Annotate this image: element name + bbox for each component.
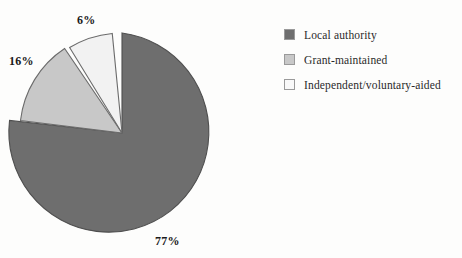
- legend-item-independent-voluntary-aided[interactable]: Independent/voluntary-aided: [284, 72, 460, 97]
- pie-chart-figure: 6% 16% 77% Local authority Grant-maintai…: [0, 0, 462, 258]
- legend-label-local-authority: Local authority: [304, 29, 377, 41]
- slice-value-label-grant-maintained: 16%: [9, 54, 34, 69]
- legend-item-grant-maintained[interactable]: Grant-maintained: [284, 47, 460, 72]
- chart-legend: Local authority Grant-maintained Indepen…: [284, 22, 460, 97]
- slice-value-label-local-authority: 77%: [155, 234, 180, 249]
- legend-swatch-icon-local-authority: [284, 29, 295, 40]
- legend-swatch-icon-independent-voluntary-aided: [284, 79, 295, 90]
- legend-label-independent-voluntary-aided: Independent/voluntary-aided: [304, 79, 441, 91]
- legend-item-local-authority[interactable]: Local authority: [284, 22, 460, 47]
- slice-value-label-independent: 6%: [77, 13, 96, 28]
- pie-chart-svg: [0, 0, 250, 258]
- legend-label-grant-maintained: Grant-maintained: [304, 54, 388, 66]
- legend-swatch-icon-grant-maintained: [284, 54, 295, 65]
- pie-chart: 6% 16% 77%: [0, 0, 250, 258]
